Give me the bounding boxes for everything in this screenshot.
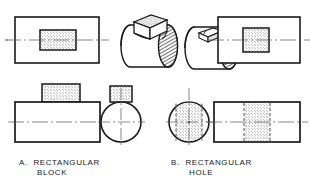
caption-b-line2: HOLE (189, 168, 252, 178)
caption-b: B. RECTANGULARHOLE (171, 158, 252, 178)
caption-a-line2: BLOCK (37, 168, 100, 178)
caption-a-line1: RECTANGULAR (33, 158, 99, 167)
front-view-block (42, 84, 80, 102)
isometric-cylinder-with-block (121, 15, 178, 67)
front-view-rectangular-hole (206, 102, 308, 142)
caption-a: A. RECTANGULARBLOCK (19, 158, 100, 178)
side-view-rectangular-block (98, 86, 145, 146)
side-view-rectangular-hole (166, 88, 213, 146)
front-view-rectangular-block (8, 84, 107, 142)
top-view-rectangular-hole (208, 17, 310, 63)
caption-b-label: B. (171, 158, 180, 167)
centerline-dot (6, 39, 8, 41)
caption-a-label: A. (19, 158, 28, 167)
caption-b-line1: RECTANGULAR (185, 158, 251, 167)
center-dot-b (188, 121, 190, 123)
top-view-rectangular-block (5, 17, 109, 63)
